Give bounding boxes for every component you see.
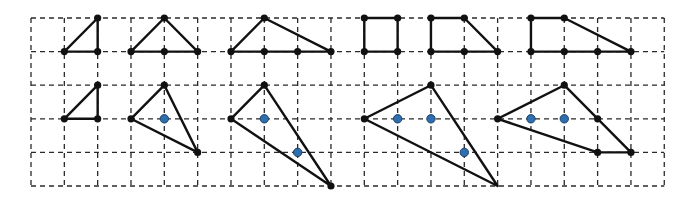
vertex-dot [94, 48, 101, 55]
bottom-figure-1 [61, 82, 102, 123]
vertex-dot [261, 14, 268, 21]
polygon-outline [231, 85, 331, 186]
blue-interior-point [460, 148, 468, 156]
vertex-dot [94, 14, 101, 21]
vertex-dot [127, 115, 134, 122]
vertex-dot [161, 48, 168, 55]
blue-interior-point [527, 115, 535, 123]
bottom-figure-3 [227, 82, 334, 190]
bottom-figure-4 [361, 82, 498, 186]
vertex-dot [161, 14, 168, 21]
polygon-outline [64, 85, 97, 119]
vertex-dot [427, 48, 434, 55]
vertex-dot [527, 14, 534, 21]
vertex-dot [594, 48, 601, 55]
vertex-dot [194, 48, 201, 55]
polygon-outline [531, 18, 631, 52]
vertex-dot [361, 48, 368, 55]
vertex-dot [227, 115, 234, 122]
vertex-dot [494, 115, 501, 122]
vertex-dot [427, 14, 434, 21]
vertex-dot [361, 14, 368, 21]
blue-interior-point [260, 115, 268, 123]
blue-interior-point [293, 148, 301, 156]
vertex-dot [394, 14, 401, 21]
vertex-dot [561, 48, 568, 55]
vertex-dot [261, 48, 268, 55]
vertex-dot [327, 182, 334, 189]
top-figure-5 [427, 14, 501, 55]
vertex-dot [161, 82, 168, 89]
vertex-dot [427, 82, 434, 89]
vertex-dot [61, 115, 68, 122]
top-figure-3 [227, 14, 334, 55]
vertex-dot [94, 115, 101, 122]
top-figure-1 [61, 14, 102, 55]
vertex-dot [361, 115, 368, 122]
vertex-dot [594, 149, 601, 156]
grid-diagram [0, 0, 685, 210]
polygon-outline [64, 18, 97, 52]
top-figure-4 [361, 14, 402, 55]
vertex-dot [627, 48, 634, 55]
top-figure-6 [527, 14, 634, 55]
polygon-outline [231, 18, 331, 52]
vertex-dot [461, 48, 468, 55]
polygon-outline [364, 18, 397, 52]
vertex-dot [561, 82, 568, 89]
vertex-dot [527, 48, 534, 55]
vertex-dot [494, 48, 501, 55]
vertex-dot [294, 48, 301, 55]
vertex-dot [627, 149, 634, 156]
vertex-dot [127, 48, 134, 55]
vertex-dot [227, 48, 234, 55]
blue-interior-point [427, 115, 435, 123]
dashed-grid [31, 18, 664, 186]
vertex-dot [61, 48, 68, 55]
vertex-dot [461, 14, 468, 21]
blue-interior-point [560, 115, 568, 123]
vertex-dot [394, 48, 401, 55]
blue-interior-point [393, 115, 401, 123]
vertex-dot [94, 82, 101, 89]
blue-interior-point [160, 115, 168, 123]
dashed-grid-with-polygons [0, 0, 685, 210]
vertex-dot [261, 82, 268, 89]
top-figure-2 [127, 14, 201, 55]
vertex-dot [194, 149, 201, 156]
vertex-dot [327, 48, 334, 55]
figures [61, 14, 635, 189]
vertex-dot [594, 115, 601, 122]
vertex-dot [561, 14, 568, 21]
